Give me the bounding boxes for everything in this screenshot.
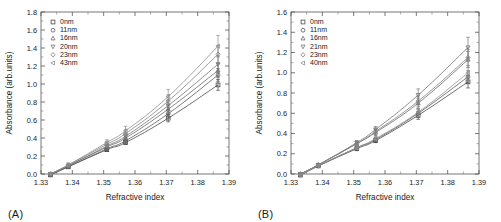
x-tick-label: 1.39: [222, 178, 236, 187]
legend-marker: [51, 28, 55, 32]
x-tick-label: 1.39: [472, 178, 486, 187]
y-tick-label: 0.2: [277, 149, 287, 158]
x-tick-label: 1.37: [409, 178, 423, 187]
panel-label-b: (B): [258, 208, 273, 220]
legend-marker: [301, 20, 305, 24]
y-tick-label: 0.0: [27, 170, 37, 179]
legend-label: 20nm: [60, 43, 78, 50]
y-tick-label: 0.0: [277, 170, 287, 179]
data-curve: [300, 47, 468, 174]
x-tick-label: 1.35: [346, 178, 360, 187]
y-tick-label: 1.6: [277, 8, 287, 17]
panel-label-a: (A): [8, 208, 23, 220]
y-tick-label: 0.4: [277, 129, 287, 138]
y-axis-title: Absorbance (arb.units): [255, 51, 264, 134]
x-tick-label: 1.36: [128, 178, 142, 187]
y-tick-label: 0.4: [27, 134, 37, 143]
legend-marker: [301, 53, 305, 58]
legend-label: 40nm: [310, 59, 328, 66]
plot-area-b: 1.331.341.351.361.371.381.390.00.20.40.6…: [250, 0, 500, 222]
legend-label: 11nm: [60, 26, 77, 33]
x-axis-title: Refractive index: [356, 193, 415, 202]
legend-label: 16nm: [60, 34, 78, 41]
data-curve: [300, 58, 468, 174]
legend-marker: [51, 61, 55, 65]
legend-marker: [51, 36, 55, 40]
legend-label: 11nm: [310, 26, 327, 33]
x-tick-label: 1.38: [440, 178, 454, 187]
y-tick-label: 0.2: [27, 152, 37, 161]
data-curve: [300, 60, 468, 174]
chart-panel-b: 1.331.341.351.361.371.381.390.00.20.40.6…: [250, 0, 500, 222]
x-tick-label: 1.36: [378, 178, 392, 187]
legend-label: 23nm: [310, 51, 328, 58]
plot-area-a: 1.331.341.351.361.371.381.390.00.20.40.6…: [0, 0, 250, 222]
y-tick-label: 1.4: [27, 44, 37, 53]
figure-container: 1.331.341.351.361.371.381.390.00.20.40.6…: [0, 0, 501, 222]
chart-panel-a: 1.331.341.351.361.371.381.390.00.20.40.6…: [0, 0, 250, 222]
legend-label: 21nm: [310, 43, 328, 50]
y-tick-label: 1.0: [27, 80, 37, 89]
x-tick-label: 1.33: [34, 178, 48, 187]
legend-marker: [301, 45, 305, 49]
x-tick-label: 1.35: [96, 178, 110, 187]
y-axis-title: Absorbance (arb.units): [5, 51, 14, 134]
y-tick-label: 0.6: [27, 116, 37, 125]
x-tick-label: 1.38: [190, 178, 204, 187]
legend-marker: [301, 36, 305, 40]
x-tick-label: 1.33: [284, 178, 298, 187]
y-tick-label: 1.4: [277, 28, 287, 37]
y-tick-label: 1.8: [27, 8, 37, 17]
legend-label: 0nm: [310, 18, 324, 25]
x-tick-label: 1.37: [159, 178, 173, 187]
legend-label: 0nm: [60, 18, 74, 25]
y-tick-label: 1.2: [27, 62, 37, 71]
y-tick-label: 1.0: [277, 68, 287, 77]
y-tick-label: 1.2: [277, 48, 287, 57]
x-tick-label: 1.34: [65, 178, 79, 187]
y-tick-label: 0.8: [27, 98, 37, 107]
legend-marker: [301, 61, 305, 65]
legend-label: 43nm: [60, 59, 78, 66]
legend-marker: [51, 53, 55, 58]
legend-marker: [51, 45, 55, 49]
legend-marker: [51, 20, 55, 24]
x-axis-title: Refractive index: [106, 193, 165, 202]
x-tick-label: 1.34: [315, 178, 329, 187]
y-tick-label: 1.6: [27, 26, 37, 35]
data-curve: [50, 64, 218, 174]
legend-label: 23nm: [60, 51, 78, 58]
legend-label: 16nm: [310, 34, 328, 41]
y-tick-label: 0.8: [277, 89, 287, 98]
data-curve: [300, 73, 468, 175]
y-tick-label: 0.6: [277, 109, 287, 118]
legend-marker: [301, 28, 305, 32]
